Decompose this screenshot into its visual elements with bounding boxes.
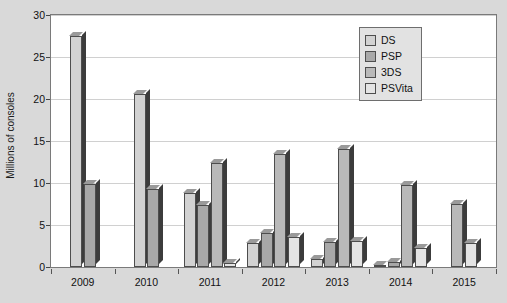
bar-psp-2014: [388, 262, 400, 267]
x-tick-mark: [305, 269, 306, 274]
bar-psp-2013: [324, 242, 336, 267]
x-tick-label: 2013: [325, 276, 348, 288]
legend-item-psp: PSP: [365, 48, 413, 64]
bar-ds-2010: [134, 94, 146, 267]
bar-top-face: [133, 90, 147, 94]
y-tick-label: 0: [19, 261, 45, 273]
bar-psvita-2014: [415, 248, 427, 267]
bar-side-face: [427, 243, 431, 264]
y-tick-label: 30: [19, 9, 45, 21]
bar-top-face: [183, 189, 197, 193]
bar-3ds-2013: [338, 149, 350, 267]
bar-top-face: [464, 239, 478, 243]
bar-top-face: [210, 159, 224, 163]
y-tick-label: 25: [19, 51, 45, 63]
bar-3ds-2014: [401, 185, 413, 267]
y-axis-title-text: Millions of consoles: [5, 92, 16, 179]
bar-top-face: [260, 229, 274, 233]
bar-3ds-2012: [274, 154, 286, 267]
bar-psvita-2013: [351, 241, 363, 267]
gridline: [51, 99, 496, 100]
bar-ds-2009: [70, 36, 82, 267]
bar-psp-2011: [197, 205, 209, 267]
bar-psvita-2015: [465, 243, 477, 267]
bar-3ds-2015: [451, 204, 463, 267]
bar-psp-2009: [84, 184, 96, 267]
bar-top-face: [310, 255, 324, 259]
bar-side-face: [223, 158, 227, 264]
legend-item-3ds: 3DS: [365, 64, 413, 80]
bar-top-face: [69, 32, 83, 36]
plot-area: [50, 14, 497, 268]
x-tick-mark: [178, 269, 179, 274]
x-tick-mark: [369, 269, 370, 274]
x-tick-label: 2009: [71, 276, 94, 288]
x-tick-label: 2014: [389, 276, 412, 288]
legend-label: 3DS: [381, 66, 401, 78]
x-tick-mark: [115, 269, 116, 274]
x-tick-mark: [496, 269, 497, 274]
bar-psp-2010: [147, 189, 159, 267]
legend-swatch-psvita: [365, 83, 376, 94]
y-tick-label: 15: [19, 135, 45, 147]
gridline: [51, 141, 496, 142]
legend-swatch-3ds: [365, 67, 376, 78]
y-axis-title: Millions of consoles: [1, 0, 19, 270]
x-tick-label: 2015: [453, 276, 476, 288]
legend-item-ds: DS: [365, 32, 413, 48]
bar-top-face: [414, 244, 428, 248]
bar-top-face: [83, 180, 97, 184]
bar-side-face: [363, 236, 367, 264]
bar-side-face: [96, 179, 100, 264]
gridline: [51, 15, 496, 16]
bar-top-face: [387, 258, 401, 262]
y-tick-label: 5: [19, 219, 45, 231]
bar-top-face: [287, 233, 301, 237]
bar-ds-2011: [184, 193, 196, 267]
x-tick-label: 2010: [135, 276, 158, 288]
legend-label: DS: [381, 34, 396, 46]
bar-side-face: [300, 232, 304, 264]
legend-swatch-ds: [365, 35, 376, 46]
x-tick-label: 2012: [262, 276, 285, 288]
bar-ds-2014: [374, 265, 386, 267]
legend: DSPSP3DSPSVita: [359, 27, 422, 101]
x-tick-mark: [242, 269, 243, 274]
bar-psvita-2012: [288, 237, 300, 267]
y-tick-label: 10: [19, 177, 45, 189]
x-tick-mark: [51, 269, 52, 274]
bar-top-face: [373, 261, 387, 265]
legend-label: PSVita: [381, 82, 413, 94]
bar-top-face: [337, 145, 351, 149]
x-tick-label: 2011: [199, 276, 222, 288]
bar-ds-2012: [247, 243, 259, 267]
x-tick-mark: [432, 269, 433, 274]
bar-3ds-2011: [211, 163, 223, 267]
bar-psvita-2011: [224, 263, 236, 267]
bar-side-face: [159, 184, 163, 264]
legend-item-psvita: PSVita: [365, 80, 413, 96]
bar-chart: Millions of consoles 051015202530 200920…: [0, 0, 507, 303]
bar-psp-2012: [261, 233, 273, 267]
gridline: [51, 57, 496, 58]
legend-label: PSP: [381, 50, 402, 62]
bar-side-face: [477, 238, 481, 264]
bar-top-face: [146, 185, 160, 189]
bar-ds-2013: [311, 259, 323, 267]
legend-swatch-psp: [365, 51, 376, 62]
y-tick-label: 20: [19, 93, 45, 105]
